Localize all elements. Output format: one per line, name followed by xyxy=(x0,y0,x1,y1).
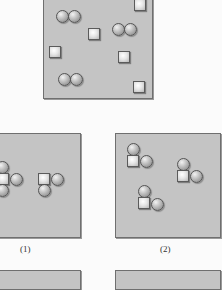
circle-atom-icon xyxy=(140,155,153,168)
option-3-panel[interactable] xyxy=(0,270,81,290)
circle-atom-icon xyxy=(10,173,23,186)
circle-atom-icon xyxy=(190,170,203,183)
option-2-label: (2) xyxy=(160,244,171,254)
option-1-label: (1) xyxy=(20,244,31,254)
circle-atom-icon xyxy=(38,184,51,197)
circle-atom-icon xyxy=(70,73,83,86)
square-atom-icon xyxy=(138,197,150,209)
circle-atom-icon xyxy=(51,173,64,186)
option-4-panel[interactable] xyxy=(115,270,221,290)
square-atom-icon xyxy=(49,46,61,58)
circle-atom-icon xyxy=(124,23,137,36)
square-atom-icon xyxy=(127,155,139,167)
circle-atom-icon xyxy=(68,10,81,23)
square-atom-icon xyxy=(88,28,100,40)
square-atom-icon xyxy=(134,0,146,11)
square-atom-icon xyxy=(118,51,130,63)
square-atom-icon xyxy=(177,170,189,182)
circle-atom-icon xyxy=(151,198,164,211)
square-atom-icon xyxy=(133,81,145,93)
